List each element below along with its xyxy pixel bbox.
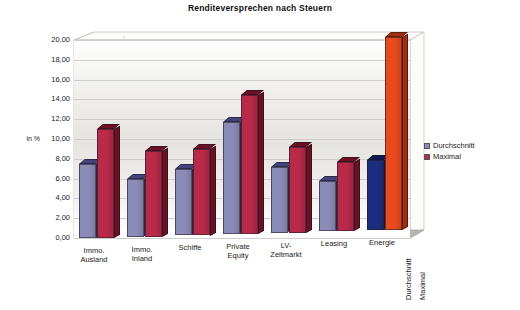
legend-swatch-icon xyxy=(424,154,430,160)
x-axis-label: Immo.Ausland xyxy=(70,246,118,264)
x-axis-label: LV-Zeitmarkt xyxy=(262,241,310,259)
bar-maximal[interactable] xyxy=(97,129,114,238)
bar-front-face xyxy=(367,160,384,230)
legend-label: Durchschnitt xyxy=(433,140,475,151)
bar-front-face xyxy=(223,122,240,234)
legend-item-durchschnitt[interactable]: Durchschnitt xyxy=(424,140,510,151)
bar-front-face xyxy=(97,129,114,238)
chart-container: Renditeversprechen nach Steuern xyxy=(0,0,520,310)
bar-front-face xyxy=(289,147,306,233)
legend: Durchschnitt Maximal xyxy=(424,140,510,162)
bar-side-face xyxy=(306,143,312,232)
bar-durchschnitt[interactable] xyxy=(367,160,384,230)
x-axis-label: Schiffe xyxy=(166,243,214,252)
legend-swatch-icon xyxy=(424,143,430,149)
bar-side-face xyxy=(258,92,264,234)
bar-maximal[interactable] xyxy=(337,162,354,231)
bar-maximal[interactable] xyxy=(385,37,402,230)
legend-label: Maximal xyxy=(433,151,461,162)
x-axis-label: Immo.Inland xyxy=(118,245,166,263)
series-axis-label-durchschnitt: Durchschnitt xyxy=(404,258,413,300)
bar-front-face xyxy=(385,37,402,230)
bar-front-face xyxy=(175,169,192,235)
bar-front-face xyxy=(127,179,144,236)
bar-maximal[interactable] xyxy=(241,95,258,234)
bar-durchschnitt[interactable] xyxy=(223,122,240,234)
bar-side-face xyxy=(210,146,216,236)
bar-durchschnitt[interactable] xyxy=(271,167,288,232)
bar-durchschnitt[interactable] xyxy=(175,169,192,235)
bar-maximal[interactable] xyxy=(145,151,162,237)
bar-maximal[interactable] xyxy=(193,149,210,236)
bar-front-face xyxy=(337,162,354,231)
x-axis-label: Leasing xyxy=(310,239,358,248)
bar-maximal[interactable] xyxy=(289,147,306,233)
bar-side-face xyxy=(354,159,360,231)
bar-front-face xyxy=(241,95,258,234)
x-axis-label: Energie xyxy=(358,238,406,247)
bar-front-face xyxy=(271,167,288,232)
bar-side-face xyxy=(114,126,120,238)
bar-side-face xyxy=(162,147,168,236)
bar-side-face xyxy=(402,34,408,230)
x-axis-label: PrivateEquity xyxy=(214,242,262,260)
bar-front-face xyxy=(193,149,210,236)
bar-front-face xyxy=(145,151,162,237)
series-axis-label-maximal: Maximal xyxy=(418,272,427,300)
bar-durchschnitt[interactable] xyxy=(79,164,96,238)
bar-front-face xyxy=(319,181,336,231)
bar-durchschnitt[interactable] xyxy=(319,181,336,231)
bar-front-face xyxy=(79,164,96,238)
bar-durchschnitt[interactable] xyxy=(127,179,144,236)
legend-item-maximal[interactable]: Maximal xyxy=(424,151,510,162)
